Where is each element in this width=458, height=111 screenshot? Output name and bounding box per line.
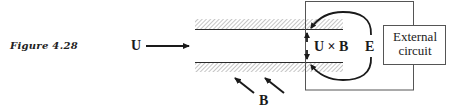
figure-4-28-diagram: Figure 4.28 U U × B E B External circuit [0,0,458,111]
magnetic-field-arrows [235,78,284,93]
figure-caption: Figure 4.28 [10,40,78,51]
magnetic-field-label: B [259,94,268,108]
bottom-electrode-plate [195,63,343,73]
external-circuit-line1: External [384,30,446,44]
velocity-label: U [131,39,141,53]
external-circuit-label: External circuit [384,30,446,57]
electric-field-label: E [365,40,374,54]
top-electrode-plate [195,19,343,30]
external-circuit-line2: circuit [384,44,446,58]
emf-label: U × B [314,40,348,54]
